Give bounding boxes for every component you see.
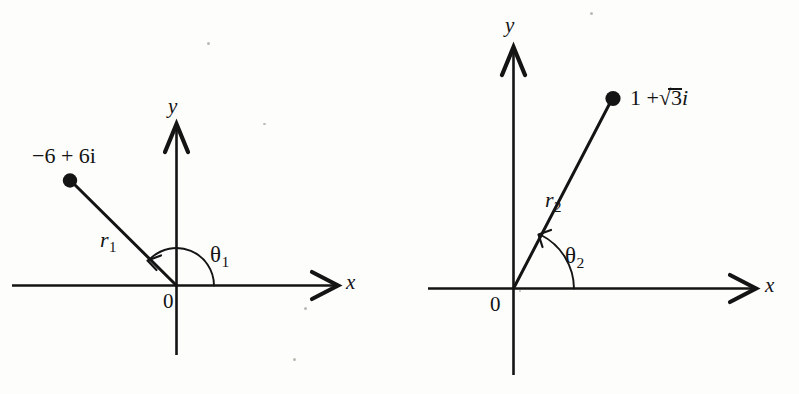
point-label-left: −6 + 6i (32, 145, 96, 167)
angle-label-right-subscript: 2 (576, 254, 584, 271)
origin-label-right: 0 (490, 294, 501, 315)
angle-label-right-symbol: θ (565, 243, 576, 268)
argand-diagram-right (428, 47, 756, 375)
radius-label-left: r1 (100, 229, 117, 255)
angle-label-left: θ1 (210, 243, 229, 270)
y-axis-label-right: y (505, 15, 514, 36)
radical-vinculum (668, 88, 682, 90)
scan-speck (304, 307, 307, 310)
radius-ray-left (72, 182, 177, 286)
y-axis-label-left: y (168, 96, 177, 117)
radius-ray-right (514, 101, 612, 289)
radius-label-right-symbol: r (545, 187, 554, 212)
point-label-right: 1 +√3i (630, 86, 688, 109)
diagram-svg-layer (0, 0, 799, 394)
point-label-right-prefix: 1 + (630, 85, 659, 110)
point-marker-right (605, 91, 620, 106)
scan-speck (293, 358, 296, 361)
origin-label-left: 0 (163, 291, 174, 312)
angle-label-right: θ2 (565, 244, 584, 271)
point-marker-left (63, 173, 77, 187)
angle-arc-arrowhead-right (539, 230, 552, 247)
scan-speck (519, 290, 521, 292)
figure-root: y x 0 −6 + 6i r1 θ1 y x 0 1 +√3i r2 θ2 (0, 0, 799, 394)
radius-label-left-symbol: r (100, 227, 109, 252)
scan-speck (263, 123, 266, 125)
scan-speck (207, 42, 210, 45)
angle-label-left-subscript: 1 (221, 253, 229, 270)
angle-label-left-symbol: θ (210, 242, 221, 267)
radius-label-left-subscript: 1 (109, 239, 117, 255)
point-label-right-suffix: i (682, 85, 688, 110)
radius-label-right: r2 (545, 189, 562, 215)
square-root-icon: √3 (659, 86, 682, 109)
radius-label-right-subscript: 2 (554, 199, 562, 215)
x-axis-label-left: x (346, 272, 355, 293)
scan-speck (590, 12, 593, 15)
x-axis-label-right: x (765, 275, 774, 296)
